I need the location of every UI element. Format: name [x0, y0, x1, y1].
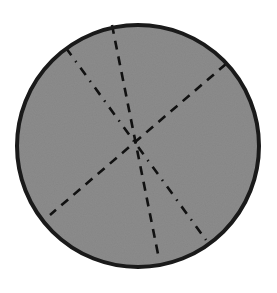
diagram-canvas [0, 0, 277, 293]
circle-diagram [0, 0, 277, 293]
